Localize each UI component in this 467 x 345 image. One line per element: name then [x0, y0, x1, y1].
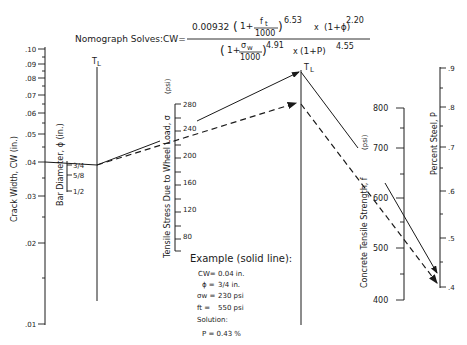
- cw-tick-0.04: .04: [25, 159, 37, 167]
- den-exp2: 4.55: [336, 42, 354, 51]
- example-cw-key: CW=: [198, 270, 216, 278]
- bar-tick-3-4: 3/4: [73, 162, 85, 170]
- num-paren-open: (: [233, 20, 238, 34]
- num-1000: 1000: [255, 29, 275, 38]
- formula-prefix: Nomograph Solves:CW=: [75, 34, 186, 44]
- ft-tick-500: 500: [373, 244, 388, 253]
- p-tick-0.4: .4: [448, 284, 455, 292]
- cw-tick-0.05: .05: [25, 131, 36, 139]
- cw-tick-0.06: .06: [25, 110, 37, 118]
- cw-tick-0.02: .02: [25, 240, 36, 248]
- num-one-plus: 1+: [240, 21, 253, 31]
- tensile-stress-axis: 280 240 200 160 120 80 Tensile Stress Du…: [163, 78, 196, 259]
- cw-tick-0.08: .08: [25, 75, 36, 83]
- ft-tick-700: 700: [373, 144, 388, 153]
- cw-tick-0.03: .03: [25, 193, 36, 201]
- example-phi-value: 3/4 in.: [218, 281, 240, 289]
- ft-axis-label: Concrete Tensile Strength, f: [360, 177, 369, 288]
- example-solution-value: P = 0.43 %: [202, 330, 241, 338]
- bar-axis-label: Bar Diameter, ϕ (in.): [56, 123, 65, 206]
- cw-tick-0.10: .10: [25, 46, 36, 54]
- p-tick-0.5: .5: [448, 235, 455, 243]
- numerator-const: 0.00932: [192, 22, 229, 32]
- p-tick-0.6: .6: [448, 188, 455, 196]
- solution-solid-line: [45, 72, 437, 273]
- formula: Nomograph Solves:CW= 0.00932 ( 1+ f t 10…: [75, 16, 370, 62]
- p-tick-0.8: .8: [448, 104, 455, 112]
- p-tick-0.7: .7: [448, 144, 455, 152]
- example-phi-key: ϕ =: [202, 281, 215, 289]
- den-paren-open: (: [220, 44, 225, 58]
- num-ft-sub: t: [265, 20, 268, 28]
- example-ft-value: 550 psi: [218, 304, 244, 312]
- ft-tick-800: 800: [373, 104, 388, 113]
- example-sw-key: σw =: [197, 292, 215, 300]
- example-solution-label: Solution:: [197, 316, 228, 324]
- nomograph: Nomograph Solves:CW= 0.00932 ( 1+ f t 10…: [0, 0, 467, 345]
- example-cw-value: 0.04 in.: [218, 270, 244, 278]
- tl1-sub: L: [97, 60, 101, 68]
- tl2-label: T: [303, 63, 309, 72]
- percent-steel-axis: .9 .8 .7 .6 .5 .4 Percent Steel, P: [430, 65, 455, 292]
- p-axis-label: Percent Steel, P: [430, 112, 439, 175]
- den-exp1: 4.91: [266, 41, 284, 50]
- cw-axis-label: Crack Width, CW (in.): [10, 136, 19, 222]
- num-exp2: 2.20: [346, 16, 364, 25]
- bar-diameter-axis: 3/4 5/8 1/2 Bar Diameter, ϕ (in.): [56, 123, 85, 206]
- tl2-sub: L: [310, 66, 314, 74]
- sw-tick-280: 280: [183, 101, 196, 109]
- cw-tick-0.01: .01: [25, 321, 36, 329]
- sw-axis-label: Tensile Stress Due to Wheel Load, σ: [163, 115, 172, 259]
- example-ft-key: ft =: [197, 304, 210, 312]
- ft-tick-400: 400: [373, 296, 388, 305]
- sw-tick-200: 200: [183, 152, 196, 160]
- cw-tick-0.09: .09: [25, 61, 36, 69]
- den-term2: (1+P): [300, 46, 326, 56]
- sw-tick-240: 240: [183, 125, 196, 133]
- turning-line-1: T L: [91, 57, 101, 301]
- example-sw-value: 230 psi: [218, 292, 244, 300]
- sw-tick-80: 80: [183, 233, 192, 241]
- example-title: Example (solid line):: [190, 253, 292, 264]
- cw-tick-0.07: .07: [25, 92, 36, 100]
- bar-tick-1-2: 1/2: [73, 188, 84, 196]
- sw-axis-unit: (psi): [164, 78, 172, 94]
- den-sw: σ: [241, 41, 246, 50]
- bar-tick-5-8: 5/8: [73, 172, 84, 180]
- ft-axis-unit: (psi): [361, 134, 369, 150]
- num-exp1: 6.53: [284, 16, 302, 25]
- den-sw-sub: w: [247, 44, 253, 52]
- num-times: x: [314, 23, 319, 32]
- den-times: x: [293, 47, 298, 56]
- p-tick-0.9: .9: [448, 65, 455, 73]
- sw-tick-120: 120: [183, 206, 196, 214]
- num-ft: f: [260, 17, 263, 26]
- num-paren-close: ): [278, 20, 283, 34]
- sw-tick-160: 160: [183, 179, 196, 187]
- crack-width-axis: .10 .09 .08 .07 .06 .05 .04 .03 .02 .01 …: [10, 46, 45, 329]
- turning-line-2: T L: [301, 63, 314, 325]
- den-one-plus: 1+: [227, 45, 240, 55]
- den-1000: 1000: [240, 53, 260, 62]
- example-panel: Example (solid line): CW= 0.04 in. ϕ = 3…: [190, 253, 292, 338]
